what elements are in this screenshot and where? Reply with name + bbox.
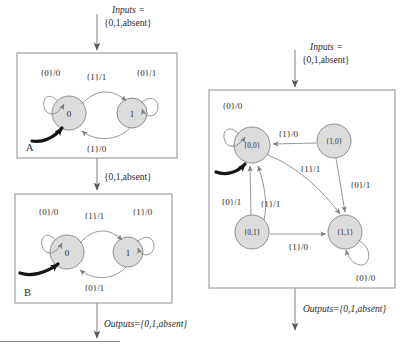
figure-canvas: Inputs = {0,1,absent} A 0 1 {0}/0 {1}/1 …	[0, 0, 419, 350]
machine-a-edge-1-to-0	[82, 128, 130, 139]
left-input-label-line1: Inputs =	[111, 5, 145, 15]
machine-b-edge-self-0-label: {0}/0	[38, 207, 59, 217]
machine-product-initial-arrow	[216, 164, 245, 174]
machine-product-edge-10-to-11-label: {0}/1	[350, 180, 370, 190]
machine-product-state-01-label: {0,1}	[244, 228, 261, 237]
machine-b-edge-self-1-label: {1}/0	[132, 207, 153, 217]
machine-b-edge-1-to-0	[80, 267, 126, 278]
machine-product-edge-01-to-00	[250, 166, 251, 215]
machine-a-edge-self-0-label: {0}/0	[40, 68, 61, 78]
machine-a-edge-1-to-0-label: {1}/0	[86, 144, 107, 154]
machine-a-edge-self-1-label: {0}/1	[136, 68, 156, 78]
machine-b-initial-arrow	[20, 264, 58, 275]
machine-a-name: A	[26, 142, 34, 153]
machine-b-name: B	[24, 287, 31, 298]
machine-product-edge-01-to-00-alt-label: {1}/1	[260, 199, 280, 209]
machine-a-state-0-label: 0	[67, 109, 72, 119]
machine-product-edge-00-to-11-label: {1}/1	[300, 164, 320, 174]
state-machine-diagram: Inputs = {0,1,absent} A 0 1 {0}/0 {1}/1 …	[0, 0, 419, 350]
machine-b-state-1-label: 1	[126, 248, 131, 258]
machine-b-edge-0-to-1-label: {1}/1	[84, 211, 104, 221]
machine-product-edge-01-to-00-alt	[258, 166, 266, 220]
machine-b-edge-1-to-0-label: {0}/1	[84, 283, 104, 293]
machine-product-state-10-label: {1,0}	[326, 137, 343, 146]
machine-product-edge-10-to-00	[273, 143, 316, 144]
left-input-label-line2: {0,1,absent}	[104, 18, 152, 28]
left-output-label: Outputs={0,1,absent}	[104, 319, 187, 329]
machine-product-edge-01-to-11-label: {1}/0	[288, 242, 309, 252]
right-input-label-line1: Inputs =	[309, 42, 343, 52]
machine-a-state-1-label: 1	[130, 109, 135, 119]
right-output-label: Outputs={0,1,absent}	[303, 304, 386, 314]
machine-product-edge-01-to-00-label: {0}/1	[221, 197, 241, 207]
machine-product-edge-10-to-11	[336, 158, 345, 212]
machine-b-state-0-label: 0	[65, 248, 70, 258]
machine-a-initial-arrow	[32, 128, 62, 141]
machine-product-state-00-label: {0,0}	[244, 141, 261, 150]
right-input-label-line2: {0,1,absent}	[302, 55, 350, 65]
left-between-label: {0,1,absent}	[104, 172, 152, 182]
page-bottom-rule	[0, 341, 120, 342]
machine-b-edge-0-to-1	[80, 231, 122, 243]
machine-product-edge-10-to-00-label: {1}/0	[278, 129, 299, 139]
machine-a-edge-0-to-1-label: {1}/1	[86, 72, 106, 82]
machine-product-state-11-label: {1,1}	[337, 228, 354, 237]
machine-product-edge-self-00-label: {0}/0	[222, 101, 243, 111]
machine-a-edge-0-to-1	[82, 92, 126, 104]
machine-product-edge-self-11-label: {0}/0	[355, 273, 376, 283]
